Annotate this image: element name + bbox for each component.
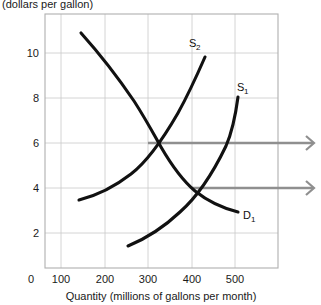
y-tick-label-2: 2	[33, 227, 39, 239]
demand-curve-d1	[81, 33, 238, 212]
y-axis-title: (dollars per gallon)	[2, 0, 93, 10]
x-axis-title: Quantity (millions of gallons per month)	[66, 290, 257, 302]
x-tick-label-0: 0	[28, 273, 34, 285]
x-tick-label-200: 200	[96, 273, 114, 285]
d1-curve-label: D	[243, 209, 251, 221]
x-tick-label-500: 500	[226, 273, 244, 285]
y-axis-tick-labels: 10 8 6 4 2	[27, 47, 39, 239]
y-tick-label-8: 8	[33, 92, 39, 104]
y-tick-label-10: 10	[27, 47, 39, 59]
d1-curve-label-subscript: 1	[251, 215, 256, 224]
x-tick-label-300: 300	[139, 273, 157, 285]
x-tick-label-400: 400	[183, 273, 201, 285]
x-axis-tick-labels: 0 100 200 300 400 500	[28, 273, 244, 285]
supply-demand-chart: (dollars per gallon) 10 8 6 4 2	[0, 0, 321, 305]
supply-curve-s2	[79, 57, 205, 200]
s2-curve-label-subscript: 2	[196, 43, 201, 52]
s1-curve-label-subscript: 1	[244, 87, 249, 96]
vertical-gridlines	[61, 14, 235, 268]
x-tick-label-100: 100	[52, 273, 70, 285]
y-tick-label-6: 6	[33, 137, 39, 149]
y-tick-label-4: 4	[33, 182, 39, 194]
